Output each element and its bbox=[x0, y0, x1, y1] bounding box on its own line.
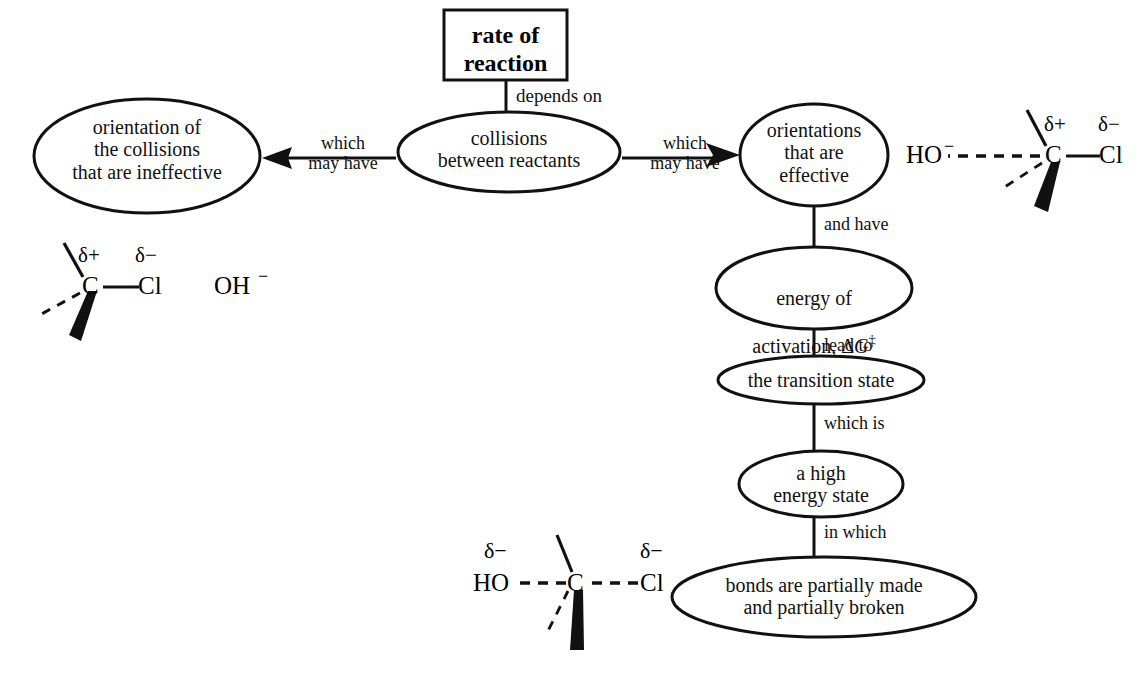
bond-dashed-downleft bbox=[548, 591, 568, 631]
mol3-hydroxide-partial-charge: δ− bbox=[484, 538, 507, 564]
node-high-energy-state bbox=[739, 451, 903, 517]
mol3-chlorine-partial-charge: δ− bbox=[640, 538, 663, 564]
mol1-chlorine-label: Cl bbox=[138, 272, 162, 300]
link-label-which-is: which is bbox=[824, 414, 934, 434]
mol3-carbon-label: C bbox=[567, 569, 584, 597]
node-energy-of-activation bbox=[716, 247, 912, 329]
node-bonds-partially-made-broken bbox=[672, 557, 976, 637]
rate-of-reaction-label: rate of reaction bbox=[444, 22, 567, 77]
node-collisions-between-reactants bbox=[398, 112, 620, 192]
node-orientations-effective bbox=[740, 104, 888, 206]
node-orientation-ineffective bbox=[34, 99, 260, 213]
bond-wedge-down bbox=[570, 590, 584, 650]
link-label-depends-on: depends on bbox=[516, 86, 646, 107]
node-transition-state bbox=[718, 356, 924, 404]
mol3-chlorine-label: Cl bbox=[640, 569, 664, 597]
mol2-carbon-partial-charge: δ+ bbox=[1044, 112, 1066, 137]
link-label-which-may-have-left: which may have bbox=[288, 134, 398, 174]
bond-dashed-downleft bbox=[1000, 163, 1042, 190]
molecule-effective bbox=[948, 110, 1100, 212]
mol1-hydroxide-label: OH bbox=[214, 272, 250, 300]
mol1-carbon-partial-charge: δ+ bbox=[78, 243, 100, 268]
mol2-carbon-label: C bbox=[1045, 141, 1062, 169]
bond-dashed-downleft bbox=[36, 293, 80, 317]
link-label-in-which: in which bbox=[824, 523, 934, 543]
link-label-and-have: and have bbox=[824, 215, 934, 235]
mol2-hydroxide-label: HO bbox=[906, 141, 942, 169]
bond-plain-up bbox=[557, 535, 572, 572]
link-label-lead-to: lead to bbox=[824, 336, 934, 356]
mol2-chlorine-label: Cl bbox=[1099, 141, 1123, 169]
mol2-hydroxide-charge: − bbox=[944, 136, 954, 157]
mol2-chlorine-partial-charge: δ− bbox=[1098, 112, 1120, 137]
link-label-which-may-have-right: which may have bbox=[630, 134, 740, 174]
mol1-carbon-label: C bbox=[82, 272, 99, 300]
mol1-chlorine-partial-charge: δ− bbox=[135, 243, 157, 268]
bond-wedge-down bbox=[1034, 162, 1060, 212]
mol1-hydroxide-charge: − bbox=[258, 266, 268, 287]
mol3-hydroxide-label: HO bbox=[473, 569, 509, 597]
